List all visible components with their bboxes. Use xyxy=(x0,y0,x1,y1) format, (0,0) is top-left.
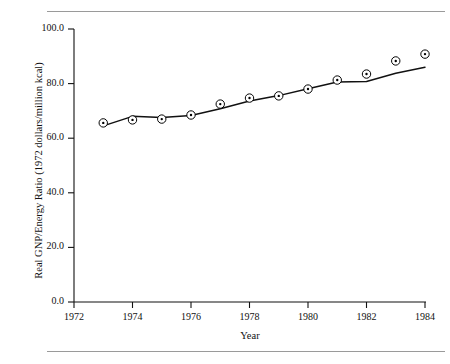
data-point-marker xyxy=(158,115,166,123)
plot-area: 0.020.040.060.080.0100.0 197219741976197… xyxy=(0,0,450,364)
data-point-marker xyxy=(128,116,136,124)
y-tick-label: 100.0 xyxy=(20,22,64,33)
y-axis-ticks xyxy=(68,29,74,302)
data-point-marker xyxy=(245,94,253,102)
data-point-marker xyxy=(333,76,341,84)
data-point-marker xyxy=(99,119,107,127)
data-point-marker xyxy=(362,70,370,78)
data-point-marker xyxy=(275,92,283,100)
data-point-marker xyxy=(421,50,429,58)
data-point-markers xyxy=(99,50,429,127)
x-tick-label: 1974 xyxy=(111,311,155,322)
data-point-marker xyxy=(304,85,312,93)
x-tick-label: 1976 xyxy=(169,311,213,322)
data-point-marker xyxy=(392,57,400,65)
bottom-divider xyxy=(47,351,445,352)
x-tick-label: 1980 xyxy=(286,311,330,322)
y-axis-title: Real GNP/Energy Ratio (1972 dollars/mill… xyxy=(33,36,44,306)
x-axis-title: Year xyxy=(74,330,426,341)
x-tick-label: 1978 xyxy=(228,311,272,322)
data-point-marker xyxy=(187,111,195,119)
x-tick-label: 1982 xyxy=(345,311,389,322)
x-axis-ticks xyxy=(74,302,425,308)
x-tick-label: 1972 xyxy=(52,311,96,322)
line-chart-svg xyxy=(0,0,450,364)
data-point-marker xyxy=(216,100,224,108)
trend-line-path xyxy=(103,67,425,126)
chart-page: 0.020.040.060.080.0100.0 197219741976197… xyxy=(0,0,450,364)
x-tick-label: 1984 xyxy=(403,311,447,322)
